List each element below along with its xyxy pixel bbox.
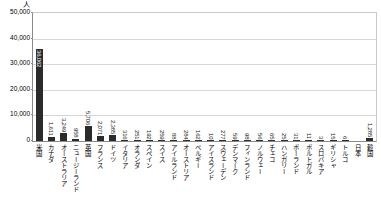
bar-slot[interactable]: 259 <box>156 13 168 141</box>
bar-value-label: 25 <box>281 133 287 139</box>
bar-slot[interactable]: 25 <box>278 13 290 141</box>
bar-series: 36,0621,6113,2499585,7062,0712,385316251… <box>33 13 376 141</box>
bar[interactable]: 98 <box>244 140 251 141</box>
bar-slot[interactable]: 3,249 <box>58 13 70 141</box>
x-axis-label-slot: チェコ <box>266 144 278 208</box>
x-axis-label-slot: デンマーク <box>229 144 241 208</box>
bar[interactable]: 2,385 <box>109 135 116 141</box>
x-axis-label-slot: イタリア <box>119 144 131 208</box>
bar-slot[interactable]: 6 <box>339 13 351 141</box>
x-axis-label-slot: 英国 <box>82 144 94 208</box>
bar[interactable]: 251 <box>134 140 141 141</box>
bar-slot[interactable]: 162 <box>192 13 204 141</box>
bar[interactable]: 6 <box>342 140 349 141</box>
bar-value-label: 316 <box>122 130 128 139</box>
bar[interactable]: 88 <box>170 140 177 141</box>
y-axis-tick-label: 50,000 <box>10 9 30 15</box>
bar[interactable]: 11 <box>305 140 312 141</box>
x-axis-label-slot: オーストリア <box>180 144 192 208</box>
x-axis-label-slot: ハンガリー <box>278 144 290 208</box>
bar-value-label: 277 <box>220 130 226 139</box>
bar-value-label: 1,285 <box>367 123 373 137</box>
bar-slot[interactable]: 251 <box>131 13 143 141</box>
x-axis-category-label: アイルランド <box>170 144 177 208</box>
bar-slot[interactable]: 958 <box>70 13 82 141</box>
bar-value-label: 192 <box>146 130 152 139</box>
bar[interactable]: 3 <box>317 140 324 141</box>
x-axis-label-slot: ポーランド <box>290 144 302 208</box>
bar[interactable]: 277 <box>219 140 226 141</box>
y-axis-tick-label: 0 <box>26 137 30 143</box>
x-axis-category-label: スイス <box>158 144 165 208</box>
bar-slot[interactable]: 98 <box>241 13 253 141</box>
bar[interactable]: 10 <box>207 140 214 141</box>
x-axis-category-label: 英国 <box>85 144 92 208</box>
x-axis-label-slot: ノルウェー <box>254 144 266 208</box>
bar-slot[interactable]: 65 <box>266 13 278 141</box>
bar[interactable]: 25 <box>281 140 288 141</box>
bar-value-label: 251 <box>134 130 140 139</box>
bar[interactable]: 5,706 <box>85 126 92 141</box>
x-axis-label-slot: 日本 <box>352 144 364 208</box>
bar-slot[interactable]: 11 <box>303 13 315 141</box>
bar[interactable]: 3,249 <box>60 133 67 141</box>
bar[interactable]: 192 <box>146 140 153 141</box>
bar-value-label: 958 <box>73 128 79 137</box>
bar-value-label: 31 <box>293 133 299 139</box>
x-axis-label-slot: スウェーデン <box>217 144 229 208</box>
bar[interactable]: 316 <box>121 140 128 141</box>
y-axis-tick-label: 20,000 <box>10 86 30 92</box>
bar-value-label: 11 <box>306 133 312 139</box>
bar-slot[interactable]: 2,071 <box>94 13 106 141</box>
bar[interactable]: 56 <box>256 140 263 141</box>
bar[interactable]: 65 <box>268 140 275 141</box>
x-axis-category-label: オーストリア <box>183 144 190 208</box>
x-axis-label-slot: カナダ <box>45 144 57 208</box>
bar[interactable]: 2,071 <box>97 136 104 141</box>
x-axis-category-label: ベルギー <box>195 144 202 208</box>
bar-slot[interactable]: 5,706 <box>82 13 94 141</box>
bar[interactable]: 162 <box>195 140 202 141</box>
x-axis-label-slot: ベルギー <box>192 144 204 208</box>
bar-slot[interactable]: 1,285 <box>364 13 376 141</box>
bar-slot[interactable]: 10 <box>205 13 217 141</box>
x-axis-label-slot: 韓国 <box>364 144 376 208</box>
bar[interactable]: 59 <box>232 140 239 141</box>
bar-slot[interactable]: 3 <box>315 13 327 141</box>
bar[interactable]: 1,285 <box>366 138 373 141</box>
bar-chart: 人 50,00040,00030,00020,00010,0000 36,062… <box>0 0 381 209</box>
bar-value-label: 1,611 <box>48 122 54 136</box>
bar-slot[interactable]: 31 <box>290 13 302 141</box>
bar-value-label: 65 <box>269 133 275 139</box>
bar[interactable]: 31 <box>293 140 300 141</box>
bar[interactable]: 36,062 <box>36 49 43 141</box>
bar[interactable]: 1,611 <box>48 137 55 141</box>
x-axis-label-slot: スロバキア <box>315 144 327 208</box>
x-axis-category-label: ドイツ <box>109 144 116 208</box>
x-axis-label-slot: スイス <box>156 144 168 208</box>
bar-value-label: 88 <box>171 133 177 139</box>
x-axis-category-label: ポーランド <box>293 144 300 208</box>
bar-slot[interactable]: 2,385 <box>107 13 119 141</box>
bar-slot[interactable]: 15 <box>327 13 339 141</box>
bar-slot[interactable]: 59 <box>229 13 241 141</box>
bar[interactable]: 259 <box>158 140 165 141</box>
bar-slot[interactable]: 192 <box>143 13 155 141</box>
x-axis-label-slot: ニュージーランド <box>70 144 82 208</box>
bar[interactable]: 15 <box>330 140 337 141</box>
bar-value-label: 259 <box>159 130 165 139</box>
bar-slot[interactable]: 1,611 <box>45 13 57 141</box>
bar-slot[interactable]: 36,062 <box>33 13 45 141</box>
bar-slot[interactable]: 284 <box>180 13 192 141</box>
bar-slot[interactable]: 277 <box>217 13 229 141</box>
bar-slot[interactable]: 316 <box>119 13 131 141</box>
bar-slot[interactable]: 88 <box>168 13 180 141</box>
bar-value-label: 15 <box>330 133 336 139</box>
bar[interactable]: 958 <box>72 139 79 141</box>
bar-slot[interactable]: 56 <box>254 13 266 141</box>
x-axis-label-slot: フランス <box>94 144 106 208</box>
bar-slot[interactable] <box>352 13 364 141</box>
x-axis-label-slot: ギリシャ <box>327 144 339 208</box>
bar[interactable]: 284 <box>183 140 190 141</box>
x-axis-category-label: ハンガリー <box>281 144 288 208</box>
